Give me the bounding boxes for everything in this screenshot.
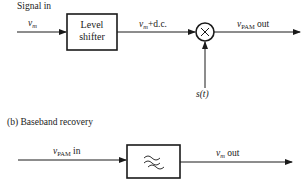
suffix: out — [255, 19, 270, 29]
var-sub: PAM — [57, 150, 71, 157]
caption-b: (b) Baseband recovery — [7, 118, 93, 128]
suffix: in — [71, 146, 81, 156]
carrier-label: s(t) — [196, 90, 209, 100]
pam-in-label: vPAM in — [53, 147, 80, 158]
suffix: +d.c. — [148, 19, 167, 29]
multiplier-x-icon — [201, 28, 209, 36]
lowpass-filter-icon — [144, 156, 164, 169]
level-shifter-label: Level shifter — [67, 19, 117, 43]
message-out-label: vm out — [216, 149, 239, 160]
block-line-1: Level — [67, 19, 117, 31]
pam-out-label: vPAM out — [237, 20, 269, 31]
block-line-2: shifter — [67, 31, 117, 43]
input-var-label: vm — [28, 19, 37, 30]
var-sub: m — [32, 22, 37, 29]
lowpass-filter-block — [127, 145, 180, 178]
suffix: out — [225, 148, 240, 158]
signal-in-label: Signal in — [17, 2, 51, 12]
var-sub: PAM — [241, 23, 255, 30]
mid-signal-label: vm+d.c. — [139, 20, 167, 31]
